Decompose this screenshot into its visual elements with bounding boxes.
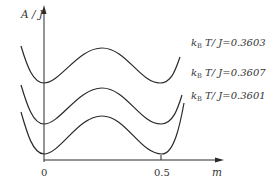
x-tick-label-0: 0	[41, 167, 47, 178]
series-labels: kB T/ J=0.3603 kB T/ J=0.3607 kB T/ J=0.…	[191, 37, 266, 103]
series-label-03607: kB T/ J=0.3607	[191, 67, 266, 80]
x-tick-label-05: 0.5	[154, 167, 170, 178]
free-energy-chart: A / J m 0 0.5 kB T/ J=0.3603 kB T/ J=0.3…	[0, 0, 274, 181]
x-axis-label: m	[212, 166, 222, 178]
curve-03601	[21, 103, 184, 154]
series-label-03601: kB T/ J=0.3601	[191, 90, 266, 103]
series-label-03603: kB T/ J=0.3603	[191, 37, 266, 50]
curve-03603	[21, 46, 180, 83]
curve-03607	[21, 85, 182, 124]
x-axis-arrow-icon	[215, 158, 224, 163]
curves	[21, 46, 184, 154]
axes	[42, 5, 225, 163]
y-axis-label: A / J	[20, 8, 44, 20]
